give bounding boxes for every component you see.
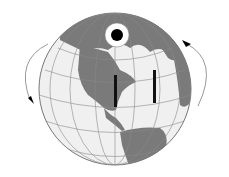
globe-diagram xyxy=(0,0,229,177)
north-pole-marker xyxy=(111,29,123,41)
left-bar xyxy=(114,75,117,107)
right-bar xyxy=(153,70,156,103)
